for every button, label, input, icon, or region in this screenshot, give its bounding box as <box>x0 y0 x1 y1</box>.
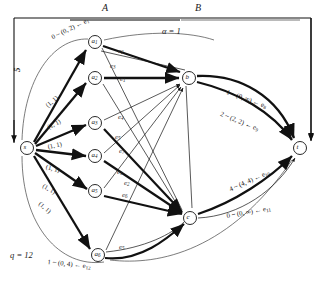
edge-name-5: e5 <box>115 133 121 141</box>
edge-name-3: e3 <box>110 62 116 70</box>
source-edges <box>34 50 90 249</box>
thin-arcs <box>22 33 292 262</box>
edge-name-8: e1 <box>117 168 123 176</box>
b-to-t-edges <box>197 76 294 140</box>
edge-name-7: e7 <box>119 147 125 155</box>
node-label-a1: a1 <box>92 37 98 45</box>
figure-canvas: A B α = 1 q = 12 5 sa1a2a3a4a5a6bct(1, 1… <box>0 0 325 284</box>
node-label-c: c <box>187 213 190 221</box>
node-label-a3: a3 <box>92 118 98 126</box>
column-header-B: B <box>195 2 201 13</box>
node-label-t: t <box>297 143 299 151</box>
alpha-annotation: α = 1 <box>162 26 181 36</box>
edge-name-9: e2 <box>124 179 130 187</box>
node-label-b: b <box>186 73 190 81</box>
column-header-A: A <box>102 2 108 13</box>
node-circles <box>21 36 307 262</box>
q-annotation: q = 12 <box>10 250 33 260</box>
node-label-s: s <box>24 143 27 151</box>
node-label-a4: a4 <box>92 151 98 159</box>
node-label-a6: a6 <box>95 250 101 258</box>
edge-name-4: e4 <box>118 113 124 121</box>
node-label-a5: a5 <box>92 186 98 194</box>
edge-name-10: e5 <box>119 243 125 251</box>
source-flow-label: 5 <box>12 68 22 73</box>
b-c-cross-edges <box>186 86 192 208</box>
a-to-c-edges <box>102 48 184 258</box>
edge-name-6: e6 <box>122 191 128 199</box>
edge-name-1: e1 <box>120 75 126 83</box>
edge-name-2: e2 <box>118 47 124 55</box>
a-to-b-edges <box>101 46 185 250</box>
node-label-a2: a2 <box>92 73 98 81</box>
